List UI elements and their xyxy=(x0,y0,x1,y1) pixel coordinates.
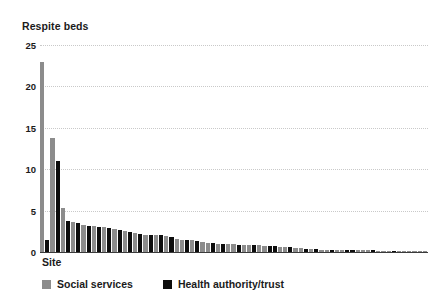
bar-series-container xyxy=(40,45,428,252)
bar xyxy=(71,222,75,252)
y-tick-label-10: 10 xyxy=(2,164,36,175)
chart-legend: Social services Health authority/trust xyxy=(42,278,284,290)
y-axis-tick-labels: 0510152025 xyxy=(0,0,36,304)
bar xyxy=(123,231,127,252)
bar xyxy=(81,225,85,252)
x-axis-title: Site xyxy=(42,256,61,268)
bar xyxy=(107,228,111,252)
bar xyxy=(149,235,153,252)
bar xyxy=(66,221,70,252)
bar xyxy=(159,235,163,252)
bar xyxy=(226,244,230,252)
bar xyxy=(40,62,44,252)
bar xyxy=(180,240,184,252)
bar xyxy=(175,239,179,252)
legend-item-health-authority: Health authority/trust xyxy=(163,278,284,290)
legend-item-social-services: Social services xyxy=(42,278,133,290)
bar xyxy=(211,243,215,252)
bar xyxy=(252,245,256,252)
bar xyxy=(143,235,147,252)
bar xyxy=(242,245,246,252)
bar xyxy=(128,232,132,252)
y-tick-label-5: 5 xyxy=(2,205,36,216)
bar xyxy=(45,240,49,252)
plot-area xyxy=(40,45,428,252)
y-tick-label-25: 25 xyxy=(2,40,36,51)
bar xyxy=(216,244,220,252)
chart-root: Respite beds 0510152025 Site Social serv… xyxy=(0,0,439,304)
x-axis-line xyxy=(40,252,428,253)
bar xyxy=(92,226,96,252)
bar xyxy=(164,236,168,252)
bar xyxy=(169,237,173,252)
bar xyxy=(138,234,142,252)
bar xyxy=(195,241,199,252)
bar xyxy=(206,243,210,252)
bar xyxy=(102,227,106,252)
bar xyxy=(50,138,54,252)
bar xyxy=(56,161,60,252)
bar xyxy=(257,245,261,252)
bar xyxy=(112,229,116,252)
bar xyxy=(237,245,241,252)
bar xyxy=(221,244,225,252)
bar xyxy=(231,244,235,252)
bar xyxy=(133,233,137,252)
bar xyxy=(190,240,194,252)
y-tick-label-20: 20 xyxy=(2,81,36,92)
y-tick-label-0: 0 xyxy=(2,247,36,258)
legend-label-health-authority: Health authority/trust xyxy=(178,278,284,290)
bar xyxy=(76,223,80,252)
legend-swatch-social-services-icon xyxy=(42,280,51,289)
bar xyxy=(154,235,158,252)
bar xyxy=(118,230,122,252)
bar xyxy=(200,242,204,252)
bar xyxy=(247,245,251,252)
bar xyxy=(61,208,65,252)
legend-label-social-services: Social services xyxy=(57,278,133,290)
legend-swatch-health-authority-icon xyxy=(163,280,172,289)
y-tick-label-15: 15 xyxy=(2,122,36,133)
bar xyxy=(87,226,91,252)
bar xyxy=(185,240,189,252)
bar xyxy=(97,227,101,252)
